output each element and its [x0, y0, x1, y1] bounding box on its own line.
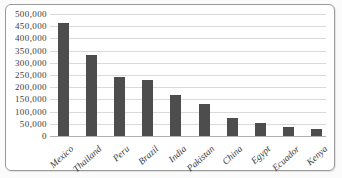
y-axis-tick-label: 350,000 [6, 45, 47, 57]
gridline [50, 51, 326, 52]
y-axis-tick-label: 450,000 [6, 20, 47, 32]
y-axis-tick-label: 500,000 [6, 8, 47, 20]
y-axis-tick-label: 200,000 [6, 81, 47, 93]
bar-brazil [142, 80, 153, 136]
y-axis-tick-label: 300,000 [6, 57, 47, 69]
y-axis-tick-label: 250,000 [6, 69, 47, 81]
bar-kenya [311, 129, 322, 136]
y-axis-tick-label: 0 [6, 130, 47, 142]
bar-thailand [86, 55, 97, 136]
bar-india [170, 95, 181, 136]
gridline [50, 26, 326, 27]
y-axis-tick-label: 150,000 [6, 93, 47, 105]
bar-china [227, 118, 238, 136]
bar-chart-frame: 500,000450,000400,000350,000300,000250,0… [5, 4, 335, 171]
x-axis-line [50, 136, 326, 137]
y-axis-tick-label: 400,000 [6, 32, 47, 44]
bar-peru [114, 77, 125, 136]
bar-egypt [255, 123, 266, 136]
bar-mexico [58, 23, 69, 136]
bar-ecuador [283, 127, 294, 136]
y-axis-tick-label: 100,000 [6, 106, 47, 118]
gridline [50, 14, 326, 15]
bar-pakistan [199, 104, 210, 136]
gridline [50, 38, 326, 39]
y-axis-tick-label: 50,000 [6, 118, 47, 130]
